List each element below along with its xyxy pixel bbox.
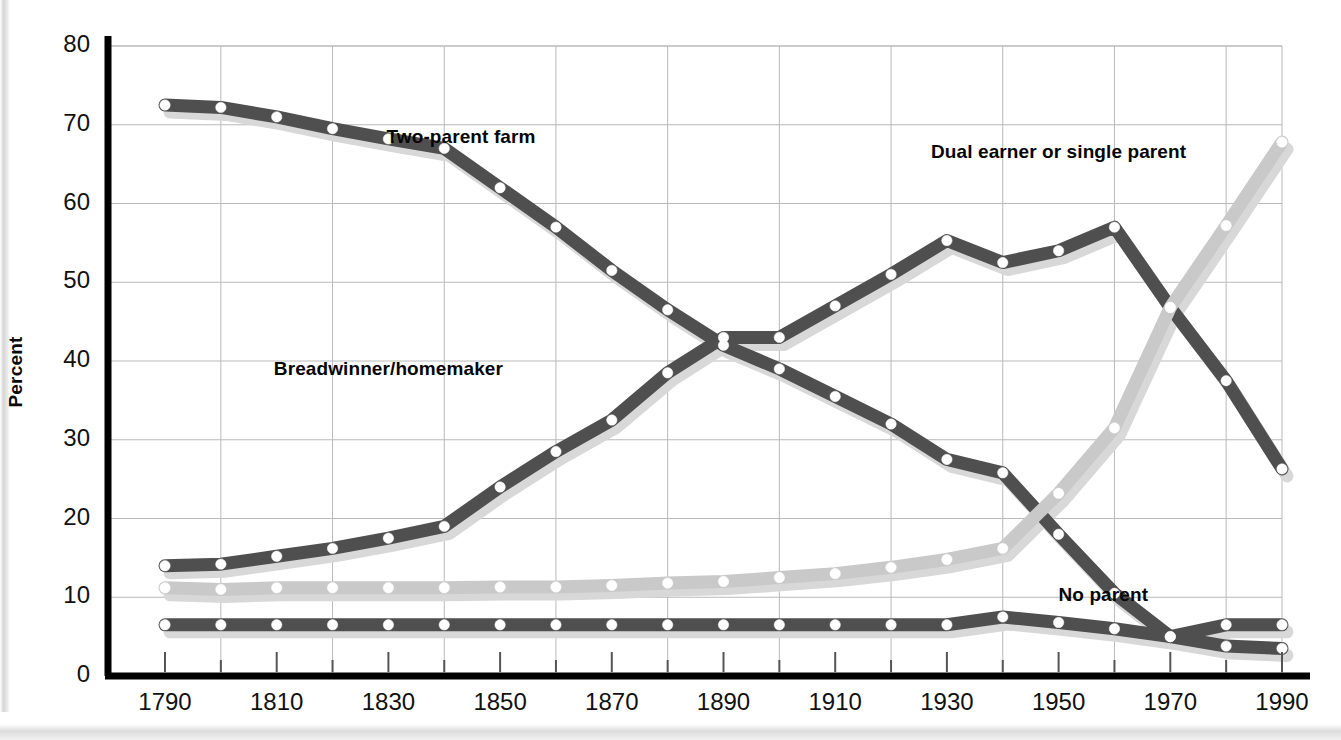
data-point-marker	[1053, 529, 1063, 539]
data-point-marker	[886, 562, 896, 572]
data-point-marker	[998, 257, 1008, 267]
y-axis-tick-label: 40	[30, 345, 90, 373]
data-point-marker	[886, 620, 896, 630]
data-point-marker	[942, 454, 952, 464]
data-point-marker	[774, 332, 784, 342]
data-point-marker	[495, 183, 505, 193]
data-point-marker	[1165, 631, 1175, 641]
data-point-marker	[160, 100, 170, 110]
data-point-marker	[998, 543, 1008, 553]
y-axis-title: Percent	[5, 336, 27, 407]
data-point-marker	[327, 583, 337, 593]
data-point-marker	[662, 368, 672, 378]
y-axis-tick-label: 20	[30, 503, 90, 531]
x-axis-tick-label: 1790	[105, 688, 225, 716]
chart-page: Percent 01020304050607080 17901810183018…	[0, 0, 1341, 740]
data-point-marker	[551, 582, 561, 592]
data-point-marker	[718, 576, 728, 586]
data-point-marker	[607, 415, 617, 425]
data-point-marker	[1109, 624, 1119, 634]
series-label-no-parent: No parent	[1058, 584, 1148, 606]
series-label-breadwinner-homemaker: Breadwinner/homemaker	[274, 358, 503, 380]
series-shadow	[170, 112, 1287, 655]
data-point-marker	[1277, 464, 1287, 474]
data-point-marker	[551, 222, 561, 232]
y-axis-tick-label: 60	[30, 188, 90, 216]
x-axis-tick-label: 1930	[887, 688, 1007, 716]
data-point-marker	[607, 580, 617, 590]
data-point-marker	[272, 551, 282, 561]
data-point-marker	[718, 332, 728, 342]
data-point-marker	[495, 582, 505, 592]
data-point-marker	[216, 102, 226, 112]
data-point-marker	[942, 554, 952, 564]
data-point-marker	[439, 521, 449, 531]
y-axis-tick-label: 50	[30, 266, 90, 294]
data-point-marker	[942, 235, 952, 245]
data-point-marker	[1109, 222, 1119, 232]
x-axis-tick-label: 1830	[328, 688, 448, 716]
data-point-marker	[662, 305, 672, 315]
data-point-marker	[327, 123, 337, 133]
data-point-marker	[942, 620, 952, 630]
data-point-marker	[1109, 423, 1119, 433]
data-point-marker	[439, 620, 449, 630]
x-axis-tick-label: 1870	[552, 688, 672, 716]
x-axis-tick-label: 1990	[1222, 688, 1341, 716]
data-point-marker	[327, 620, 337, 630]
data-point-marker	[607, 620, 617, 630]
y-axis-tick-label: 30	[30, 424, 90, 452]
x-axis-tick-label: 1970	[1110, 688, 1230, 716]
data-point-marker	[439, 583, 449, 593]
data-point-marker	[160, 561, 170, 571]
data-point-marker	[383, 533, 393, 543]
data-point-marker	[830, 568, 840, 578]
data-point-marker	[830, 391, 840, 401]
data-point-marker	[774, 364, 784, 374]
data-point-marker	[774, 620, 784, 630]
x-axis-tick-label: 1910	[775, 688, 895, 716]
data-point-marker	[1221, 641, 1231, 651]
data-point-marker	[495, 620, 505, 630]
x-axis-tick-label: 1890	[664, 688, 784, 716]
series-shadows	[170, 112, 1287, 655]
data-point-marker	[1221, 220, 1231, 230]
data-point-marker	[1053, 246, 1063, 256]
data-point-marker	[272, 112, 282, 122]
data-point-marker	[1053, 488, 1063, 498]
data-point-marker	[160, 620, 170, 630]
data-point-marker	[216, 559, 226, 569]
data-point-marker	[774, 572, 784, 582]
data-point-marker	[216, 584, 226, 594]
series-label-dual-earner-single-parent: Dual earner or single parent	[931, 141, 1186, 163]
data-point-marker	[495, 482, 505, 492]
data-point-marker	[662, 620, 672, 630]
data-point-marker	[383, 583, 393, 593]
data-point-marker	[1053, 617, 1063, 627]
y-axis-tick-label: 80	[30, 30, 90, 58]
data-point-marker	[1221, 375, 1231, 385]
data-point-marker	[607, 265, 617, 275]
data-point-marker	[216, 620, 226, 630]
x-axis-tick-label: 1810	[217, 688, 337, 716]
data-point-marker	[886, 269, 896, 279]
data-point-marker	[327, 543, 337, 553]
line-chart	[0, 0, 1341, 740]
y-axis-tick-label: 10	[30, 581, 90, 609]
data-point-marker	[1277, 620, 1287, 630]
x-axis-tick-label: 1850	[440, 688, 560, 716]
data-point-marker	[272, 583, 282, 593]
data-point-marker	[383, 620, 393, 630]
x-axis-tick-label: 1950	[999, 688, 1119, 716]
data-point-marker	[662, 578, 672, 588]
data-point-marker	[1277, 137, 1287, 147]
data-point-marker	[272, 620, 282, 630]
data-point-marker	[886, 419, 896, 429]
data-point-marker	[830, 620, 840, 630]
data-point-marker	[551, 620, 561, 630]
data-point-marker	[160, 583, 170, 593]
y-axis-tick-label: 0	[30, 660, 90, 688]
data-point-marker	[1221, 620, 1231, 630]
data-point-marker	[998, 612, 1008, 622]
data-point-marker	[998, 468, 1008, 478]
